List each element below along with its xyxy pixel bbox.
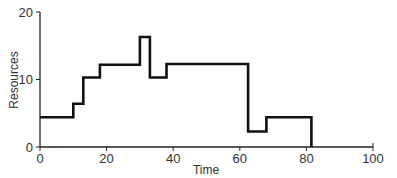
- x-tick-label: 40: [166, 151, 180, 166]
- x-tick-label: 60: [233, 151, 247, 166]
- y-ticks: 0 10 20: [19, 5, 40, 155]
- y-tick-label: 20: [19, 5, 33, 20]
- y-tick-label: 0: [26, 140, 33, 155]
- x-tick-label: 0: [36, 151, 43, 166]
- x-axis-label: Time: [193, 163, 220, 177]
- resources-step-line: [40, 37, 311, 147]
- x-tick-label: 80: [299, 151, 313, 166]
- y-axis-label: Resources: [7, 51, 21, 108]
- resource-step-chart: 0 10 20 0 20 40 60 80 100 Time Resources: [0, 0, 397, 178]
- x-tick-label: 100: [362, 151, 384, 166]
- x-tick-label: 20: [99, 151, 113, 166]
